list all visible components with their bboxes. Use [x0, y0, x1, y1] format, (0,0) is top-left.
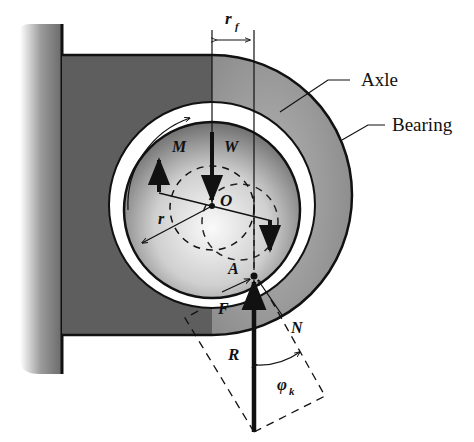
r-label: r: [158, 210, 165, 227]
w-label: W: [224, 138, 240, 155]
contact-point: [251, 273, 258, 280]
phi-label: φ: [277, 375, 287, 394]
phi-subscript: k: [289, 385, 295, 397]
bearing-diagram: r f W M O r A R N F φ k Axle Bearing: [0, 0, 474, 442]
r-force-label: R: [227, 345, 239, 364]
a-label: A: [227, 260, 239, 277]
rf-label: r: [225, 9, 232, 28]
axle-label: Axle: [361, 69, 398, 90]
f-label: F: [217, 300, 229, 317]
wall-support: [20, 24, 62, 374]
rf-subscript: f: [235, 20, 240, 32]
bearing-label: Bearing: [392, 114, 453, 135]
n-label: N: [290, 319, 304, 336]
bearing-leader: [342, 125, 385, 140]
m-label: M: [171, 138, 187, 155]
o-label: O: [220, 191, 232, 210]
